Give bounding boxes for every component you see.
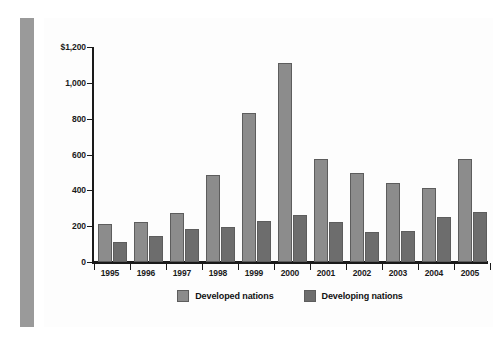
y-axis-tick-label: 600 <box>72 150 86 159</box>
x-axis-tick-label: 2000 <box>272 268 308 278</box>
bar <box>350 173 364 262</box>
bar-group <box>421 47 457 262</box>
bar-group <box>205 47 241 262</box>
x-axis-tick-label: 1995 <box>92 268 128 278</box>
x-axis-tick-label: 2002 <box>344 268 380 278</box>
bar-group <box>97 47 133 262</box>
bar-group <box>241 47 277 262</box>
y-axis-tick-label: 0 <box>81 258 86 267</box>
bar-group <box>277 47 313 262</box>
bar <box>98 224 112 262</box>
bar <box>257 221 271 262</box>
x-axis-tick-label: 2003 <box>380 268 416 278</box>
bar <box>314 159 328 262</box>
bar <box>149 236 163 262</box>
bar <box>206 175 220 262</box>
bar <box>113 242 127 262</box>
legend-swatch <box>304 290 316 302</box>
y-axis-tick-label: 1,000 <box>65 79 86 88</box>
y-axis-tick-mark <box>87 83 92 84</box>
x-axis-tick-label: 1996 <box>128 268 164 278</box>
bar <box>473 212 487 262</box>
x-axis-tick-label: 2001 <box>308 268 344 278</box>
y-axis-tick-mark <box>87 155 92 156</box>
bar <box>365 232 379 262</box>
legend-entry[interactable]: Developing nations <box>304 290 403 302</box>
y-axis-tick-label: 400 <box>72 186 86 195</box>
y-axis-tick-mark <box>87 119 92 120</box>
bar <box>293 215 307 262</box>
x-axis-tick-label: 2005 <box>452 268 488 278</box>
bar <box>170 213 184 262</box>
bar <box>401 231 415 262</box>
bar <box>221 227 235 262</box>
x-axis-tick-labels: 1995199619971998199920002001200220032004… <box>92 268 488 284</box>
bar-group <box>313 47 349 262</box>
x-axis-tick-label: 1997 <box>164 268 200 278</box>
bar <box>422 188 436 262</box>
bar-group <box>169 47 205 262</box>
decorative-left-strip <box>20 18 34 327</box>
x-axis-tick-label: 1998 <box>200 268 236 278</box>
bar-group <box>349 47 385 262</box>
y-axis-tick-mark <box>87 47 92 48</box>
y-axis-tick-mark <box>87 190 92 191</box>
y-axis-tick-labels: 02004006008001,000$1,200 <box>44 18 92 327</box>
bar-group <box>385 47 421 262</box>
y-axis-tick-label: 800 <box>72 114 86 123</box>
bar <box>437 217 451 262</box>
plot-area <box>92 47 488 262</box>
bar-group <box>457 47 493 262</box>
y-axis-tick-mark <box>87 262 92 263</box>
bar <box>242 113 256 262</box>
y-axis-tick-mark <box>87 226 92 227</box>
legend-label: Developed nations <box>195 291 273 301</box>
bars-layer <box>94 47 488 262</box>
bar <box>185 229 199 262</box>
x-axis-tick-mark <box>490 263 491 270</box>
x-axis-tick-label: 1999 <box>236 268 272 278</box>
legend-entry[interactable]: Developed nations <box>177 290 273 302</box>
bar <box>278 63 292 262</box>
bar-chart-figure: 02004006008001,000$1,200 199519961997199… <box>44 18 493 327</box>
legend-label: Developing nations <box>322 291 403 301</box>
y-axis-tick-label: 200 <box>72 222 86 231</box>
bar <box>386 183 400 262</box>
bar <box>134 222 148 262</box>
y-axis-tick-label: $1,200 <box>61 43 86 52</box>
bar <box>458 159 472 262</box>
bar <box>329 222 343 262</box>
bar-group <box>133 47 169 262</box>
legend-swatch <box>177 290 189 302</box>
chart-legend: Developed nationsDeveloping nations <box>92 290 488 302</box>
x-axis-tick-label: 2004 <box>416 268 452 278</box>
